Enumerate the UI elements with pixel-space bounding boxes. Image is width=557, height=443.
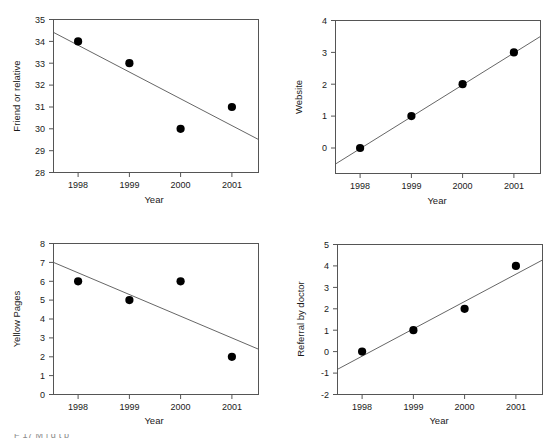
x-axis-title: Year (144, 415, 163, 426)
data-point (228, 103, 236, 111)
y-tick-label: -2 (321, 390, 329, 400)
y-tick-label: 3 (324, 283, 329, 293)
x-axis-ticks (360, 174, 514, 179)
y-tick-label: 8 (40, 239, 45, 249)
y-tick-label: 6 (40, 277, 45, 287)
data-point (74, 37, 82, 45)
y-tick-label: 5 (324, 240, 329, 250)
y-tick-label: 34 (35, 37, 45, 47)
y-axis-tick-labels: 4 3 2 1 0 (322, 16, 327, 154)
x-tick-label: 2000 (171, 402, 191, 412)
y-axis-title: Friend or relative (11, 60, 22, 131)
y-tick-label: 29 (35, 146, 45, 156)
trend-line (338, 260, 543, 369)
chart-panel-friend-or-relative: 35 34 33 32 31 30 29 28 1998 1999 2000 2… (0, 0, 280, 212)
x-axis-ticks (78, 395, 232, 400)
data-point (512, 262, 520, 270)
y-axis-title: Yellow Pages (11, 290, 22, 347)
y-axis-tick-labels: 35 34 33 32 31 30 29 28 (35, 15, 45, 178)
y-axis-tick-labels: 8 7 6 5 4 3 2 1 0 (40, 239, 45, 400)
x-tick-label: 2001 (504, 181, 524, 191)
y-tick-label: 35 (35, 15, 45, 25)
y-axis-ticks (333, 245, 338, 395)
chart-panel-yellow-pages: 8 7 6 5 4 3 2 1 0 1998 1999 2000 2001 (0, 212, 280, 434)
chart-panel-website: 4 3 2 1 0 1998 1999 2000 2001 (280, 0, 557, 212)
plot-frame (54, 20, 259, 173)
y-axis-title: Referral by doctor (295, 281, 306, 357)
data-point (228, 353, 236, 361)
x-tick-label: 2000 (455, 402, 475, 412)
x-tick-label: 2001 (222, 180, 242, 190)
y-tick-label: 3 (40, 333, 45, 343)
y-tick-label: 0 (324, 347, 329, 357)
x-axis-title: Year (144, 194, 163, 205)
x-axis-title: Year (429, 415, 448, 426)
x-tick-label: 2001 (506, 402, 526, 412)
x-tick-label: 1999 (119, 180, 139, 190)
x-axis-tick-labels: 1998 1999 2000 2001 (68, 402, 242, 412)
y-tick-label: 32 (35, 80, 45, 90)
x-tick-label: 1999 (401, 181, 421, 191)
x-axis-tick-labels: 1998 1999 2000 2001 (350, 181, 524, 191)
chart-panel-referral-by-doctor: 5 4 3 2 1 0 -1 -2 1998 1999 2000 2001 (280, 212, 557, 434)
y-tick-label: 0 (322, 143, 327, 153)
x-tick-label: 1999 (119, 402, 139, 412)
x-tick-label: 1998 (350, 181, 370, 191)
x-axis-title: Year (427, 195, 446, 206)
x-axis-ticks (78, 173, 232, 178)
y-tick-label: 3 (322, 48, 327, 58)
chart-svg-3: 8 7 6 5 4 3 2 1 0 1998 1999 2000 2001 (0, 212, 280, 434)
data-point (125, 296, 133, 304)
y-tick-label: -1 (321, 368, 329, 378)
x-axis-tick-labels: 1998 1999 2000 2001 (352, 402, 526, 412)
y-tick-label: 7 (40, 258, 45, 268)
y-tick-label: 33 (35, 59, 45, 69)
y-axis-tick-labels: 5 4 3 2 1 0 -1 -2 (321, 240, 329, 400)
y-tick-label: 1 (40, 371, 45, 381)
y-tick-label: 28 (35, 168, 45, 178)
y-tick-label: 2 (322, 80, 327, 90)
data-point (459, 80, 467, 88)
x-tick-label: 2001 (222, 402, 242, 412)
y-tick-label: 2 (324, 304, 329, 314)
x-tick-label: 1999 (403, 402, 423, 412)
data-point (358, 348, 366, 356)
trend-line (54, 262, 259, 349)
data-point (125, 59, 133, 67)
chart-svg-2: 4 3 2 1 0 1998 1999 2000 2001 (280, 0, 557, 212)
plot-frame (54, 244, 259, 395)
y-tick-label: 1 (322, 111, 327, 121)
y-axis-ticks (49, 20, 54, 173)
data-point (409, 326, 417, 334)
chart-svg-1: 35 34 33 32 31 30 29 28 1998 1999 2000 2… (0, 0, 280, 212)
plot-frame (336, 21, 541, 174)
x-tick-label: 1998 (68, 402, 88, 412)
x-tick-label: 1998 (352, 402, 372, 412)
y-axis-ticks (331, 21, 336, 149)
y-tick-label: 4 (322, 16, 327, 26)
x-tick-label: 2000 (453, 181, 473, 191)
data-point (407, 112, 415, 120)
y-tick-label: 5 (40, 295, 45, 305)
y-tick-label: 2 (40, 352, 45, 362)
figure-panel-grid: 35 34 33 32 31 30 29 28 1998 1999 2000 2… (0, 0, 557, 443)
data-point (177, 125, 185, 133)
y-axis-title: Website (293, 80, 304, 114)
data-point (510, 48, 518, 56)
y-tick-label: 4 (40, 314, 45, 324)
y-tick-label: 30 (35, 124, 45, 134)
data-point (461, 305, 469, 313)
data-point (74, 277, 82, 285)
chart-svg-4: 5 4 3 2 1 0 -1 -2 1998 1999 2000 2001 (280, 212, 557, 434)
y-tick-label: 31 (35, 102, 45, 112)
x-tick-label: 1998 (68, 180, 88, 190)
data-point (177, 277, 185, 285)
plot-frame (338, 245, 543, 395)
y-axis-ticks (49, 244, 54, 395)
x-tick-label: 2000 (171, 180, 191, 190)
y-tick-label: 0 (40, 390, 45, 400)
figure-caption-text: F 17 M l d t b (14, 434, 69, 440)
figure-caption-clipped: F 17 M l d t b (0, 434, 557, 443)
trend-line (54, 32, 259, 139)
y-tick-label: 4 (324, 261, 329, 271)
